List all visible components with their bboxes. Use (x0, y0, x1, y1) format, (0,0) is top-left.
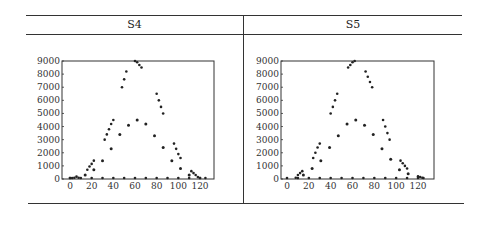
data-point (286, 177, 289, 180)
data-point (308, 177, 311, 180)
y-tick-label: 9000 (37, 56, 60, 66)
data-point (329, 112, 332, 115)
data-point (84, 174, 87, 177)
data-point (372, 133, 375, 136)
data-point (136, 61, 139, 64)
chart-s4: 0100020003000400050006000700080009000020… (37, 56, 214, 191)
data-point (371, 86, 374, 89)
data-point (123, 177, 126, 180)
data-point (140, 66, 143, 69)
data-point (312, 157, 315, 160)
data-point (297, 174, 300, 177)
data-point (110, 123, 113, 126)
data-point (80, 177, 83, 180)
y-tick-label: 6000 (37, 95, 60, 105)
x-tick-label: 80 (369, 181, 381, 191)
data-point (93, 159, 96, 162)
x-tick-label: 60 (129, 181, 141, 191)
data-point (179, 167, 182, 170)
data-point (86, 169, 89, 172)
x-tick-label: 20 (86, 181, 98, 191)
data-point (188, 174, 191, 177)
data-point (145, 177, 148, 180)
data-point (170, 159, 173, 162)
x-tick-label: 120 (191, 181, 208, 191)
y-tick-label: 3000 (37, 135, 60, 145)
x-tick-label: 100 (170, 181, 187, 191)
data-point (399, 159, 402, 162)
data-point (406, 177, 409, 180)
x-tick-label: 60 (347, 181, 359, 191)
x-tick-label: 20 (303, 181, 315, 191)
y-tick-label: 6000 (256, 95, 279, 105)
y-tick-label: 5000 (256, 108, 279, 118)
data-point (90, 177, 93, 180)
data-point (332, 106, 335, 109)
data-point (125, 70, 128, 73)
data-point (328, 146, 331, 149)
data-point (336, 92, 339, 95)
data-point (112, 177, 115, 180)
data-point (316, 146, 319, 149)
y-tick-label: 1000 (37, 161, 60, 171)
chart-s5: 0100020003000400050006000700080009000020… (256, 56, 434, 191)
y-tick-label: 0 (273, 174, 279, 184)
data-point (173, 142, 176, 145)
data-point (162, 112, 165, 115)
data-point (194, 174, 197, 177)
data-point (121, 86, 124, 89)
data-point (127, 124, 130, 127)
data-point (101, 159, 104, 162)
x-tick-label: 40 (108, 181, 120, 191)
x-tick-label: 120 (409, 181, 426, 191)
data-point (134, 177, 137, 180)
y-tick-label: 4000 (256, 122, 279, 132)
data-point (337, 134, 340, 137)
data-point (386, 132, 389, 135)
data-point (136, 119, 139, 122)
data-point (69, 177, 72, 180)
data-point (112, 119, 115, 122)
data-point (404, 165, 407, 168)
data-point (314, 151, 317, 154)
data-point (88, 165, 91, 168)
data-point (199, 177, 202, 180)
data-point (166, 177, 169, 180)
data-point (406, 167, 409, 170)
y-tick-label: 8000 (37, 69, 60, 79)
y-tick-label: 4000 (37, 122, 60, 132)
data-point (188, 177, 191, 180)
y-tick-label: 9000 (256, 56, 279, 66)
data-point (299, 172, 302, 175)
x-tick-label: 40 (325, 181, 337, 191)
data-point (175, 148, 178, 151)
data-point (318, 142, 321, 145)
data-point (369, 81, 372, 84)
data-point (384, 125, 387, 128)
data-point (364, 70, 367, 73)
x-tick-label: 0 (284, 181, 290, 191)
data-point (334, 99, 337, 102)
data-point (155, 177, 158, 180)
data-point (407, 172, 410, 175)
data-point (160, 106, 163, 109)
y-tick-label: 3000 (256, 135, 279, 145)
data-point (389, 158, 392, 161)
data-point (366, 75, 369, 78)
data-point (158, 99, 161, 102)
data-point (204, 177, 207, 180)
data-point (373, 177, 376, 180)
data-point (351, 61, 354, 64)
x-tick-label: 80 (151, 181, 163, 191)
data-point (177, 177, 180, 180)
y-tick-label: 5000 (37, 108, 60, 118)
data-point (319, 159, 322, 162)
data-point (110, 147, 113, 150)
data-point (417, 177, 420, 180)
data-point (340, 177, 343, 180)
data-point (346, 122, 349, 125)
x-tick-label: 0 (67, 181, 73, 191)
y-tick-label: 0 (54, 174, 60, 184)
data-point (106, 133, 109, 136)
data-point (123, 78, 126, 81)
